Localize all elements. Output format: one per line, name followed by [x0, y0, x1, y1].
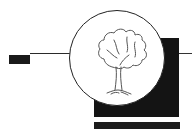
- tree-icon: [69, 10, 165, 106]
- bottom-accent-bar: [94, 122, 180, 129]
- left-connector-line: [30, 53, 70, 54]
- right-connector-line: [179, 53, 192, 54]
- left-accent-bar: [9, 55, 30, 64]
